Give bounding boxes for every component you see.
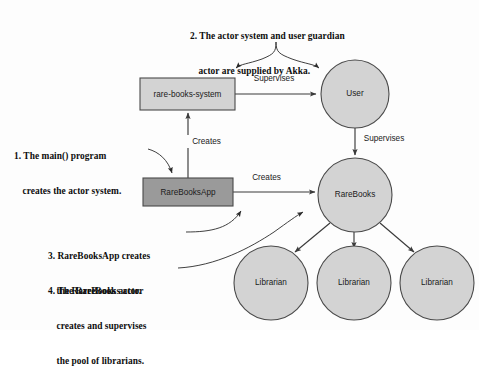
leader-annotation-3 bbox=[186, 211, 241, 232]
node-librarian-1[interactable]: Librarian bbox=[234, 246, 308, 320]
edge-label-creates-rarebooks: Creates bbox=[246, 171, 287, 184]
annotation-2: 2. The actor system and user guardian ac… bbox=[190, 8, 345, 101]
node-rarebooks[interactable]: RareBooks bbox=[318, 158, 392, 232]
svg-text:Creates: Creates bbox=[192, 137, 221, 146]
annotation-1: 1. The main() program creates the actor … bbox=[14, 128, 121, 221]
annotation-4-line-3: the pool of librarians. bbox=[48, 356, 146, 368]
annotation-4-line-2: creates and supervises bbox=[48, 321, 146, 333]
edge-label-creates-system: Creates bbox=[186, 135, 227, 148]
node-label-rarebooksapp: RareBooksApp bbox=[160, 188, 216, 197]
svg-text:Creates: Creates bbox=[252, 173, 281, 182]
leader-annotation-1 bbox=[148, 149, 172, 173]
annotation-4: 4. The RareBooks actor creates and super… bbox=[48, 263, 146, 370]
annotation-1-line-1: 1. The main() program bbox=[14, 151, 121, 163]
annotation-1-line-2: creates the actor system. bbox=[14, 186, 121, 198]
annotation-2-line-1: 2. The actor system and user guardian bbox=[190, 31, 345, 43]
node-label-librarian-3: Librarian bbox=[421, 278, 453, 287]
node-rarebooksapp[interactable]: RareBooksApp bbox=[143, 178, 233, 206]
node-librarian-3[interactable]: Librarian bbox=[400, 246, 474, 320]
node-librarian-2[interactable]: Librarian bbox=[317, 246, 391, 320]
node-label-librarian-2: Librarian bbox=[338, 278, 370, 287]
node-label-rarebooks: RareBooks bbox=[335, 190, 376, 199]
svg-text:Supervises: Supervises bbox=[364, 134, 405, 143]
annotation-3-line-1: 3. RareBooksApp creates bbox=[48, 251, 150, 263]
edge-label-supervises-rarebooks: Supervises bbox=[356, 132, 412, 145]
edge-rarebooks-librarian-1 bbox=[295, 223, 330, 252]
annotation-2-line-2: actor are supplied by Akka. bbox=[190, 66, 345, 78]
node-label-librarian-1: Librarian bbox=[255, 278, 287, 287]
edge-rarebooks-librarian-3 bbox=[380, 223, 414, 252]
annotation-4-line-1: 4. The RareBooks actor bbox=[48, 286, 146, 298]
node-label-user: User bbox=[346, 89, 364, 98]
